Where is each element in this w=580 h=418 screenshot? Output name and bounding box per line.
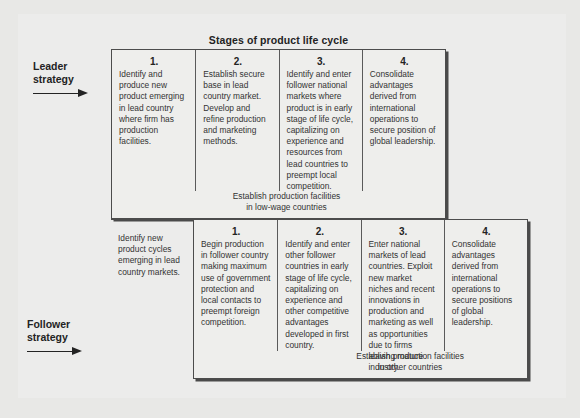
leader-cell-2-text: Establish secure base in lead country ma… — [203, 69, 272, 147]
leader-cell-4: 4. Consolidate advantages derived from i… — [362, 50, 445, 191]
follower-strategy-label-line2: strategy — [27, 331, 83, 344]
diagram-title: Stages of product life cycle — [111, 34, 446, 46]
follower-strategy-label-line1: Follower — [27, 318, 83, 331]
follower-arrow-icon — [27, 347, 83, 357]
follower-cell-1-text: Begin production in follower country mak… — [201, 239, 271, 329]
follower-arrow-shaft — [27, 351, 74, 352]
leader-strategy-label-line2: strategy — [33, 73, 89, 86]
leader-cell-3: 3. Identify and enter follower national … — [279, 50, 362, 191]
follower-cells-row: 1. Begin production in follower country … — [194, 220, 527, 351]
leader-footnote-line1: Establish production facilities — [203, 191, 370, 202]
leader-cell-1-number: 1. — [119, 56, 189, 68]
leader-cell-2: 2. Establish secure base in lead country… — [195, 50, 278, 191]
leader-arrow-icon — [33, 89, 89, 99]
leader-arrow-shaft — [33, 93, 80, 94]
leader-arrow-head — [78, 89, 88, 97]
follower-cell-2-number: 2. — [285, 226, 354, 238]
follower-strategy-label: Follower strategy — [27, 318, 83, 357]
leader-cell-4-number: 4. — [370, 56, 439, 68]
follower-arrow-head — [72, 347, 82, 355]
leader-cell-3-number: 3. — [287, 56, 356, 68]
leader-cell-1-text: Identify and produce new product emergin… — [119, 69, 189, 147]
leader-cell-4-text: Consolidate advantages derived from inte… — [370, 69, 439, 147]
product-life-cycle-diagram: Stages of product life cycle Leader stra… — [0, 0, 580, 418]
leader-strategy-label: Leader strategy — [33, 60, 89, 99]
leader-footnote: Establish production facilities in low-w… — [195, 191, 378, 218]
follower-cell-4-number: 4. — [452, 226, 521, 238]
leader-cell-3-text: Identify and enter follower national mar… — [287, 69, 356, 192]
leader-cells-row: 1. Identify and produce new product emer… — [112, 50, 445, 191]
follower-cell-2: 2. Identify and enter other follower cou… — [277, 220, 360, 351]
leader-cell-1: 1. Identify and produce new product emer… — [112, 50, 195, 191]
follower-cell-4-text: Consolidate advantages derived from inte… — [452, 239, 521, 329]
follower-strategy-box: 1. Begin production in follower country … — [193, 219, 528, 379]
leader-cell-2-number: 2. — [203, 56, 272, 68]
follower-cell-4: 4. Consolidate advantages derived from i… — [444, 220, 527, 351]
follower-cell-3-text: Enter national markets of lead countries… — [369, 239, 438, 373]
follower-cell-3-number: 3. — [369, 226, 438, 238]
follower-cell-1: 1. Begin production in follower country … — [194, 220, 277, 351]
leader-strategy-label-line1: Leader — [33, 60, 89, 73]
follower-cell-2-text: Identify and enter other follower countr… — [285, 239, 354, 351]
follower-intro-text: Identify new product cycles emerging in … — [118, 233, 185, 278]
follower-intro-cell: Identify new product cycles emerging in … — [111, 219, 193, 278]
leader-strategy-box: 1. Identify and produce new product emer… — [111, 49, 446, 219]
follower-cell-1-number: 1. — [201, 226, 271, 238]
leader-footnote-line2: in low-wage countries — [203, 202, 370, 213]
follower-cell-3: 3. Enter national markets of lead countr… — [361, 220, 444, 351]
